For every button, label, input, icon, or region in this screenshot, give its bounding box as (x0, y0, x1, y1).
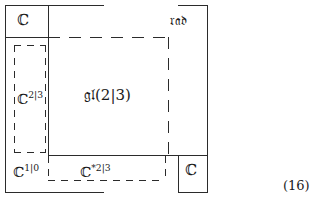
bottom-block-bottom-dashed-edge (48, 180, 165, 181)
bottom-right-box-left-line (178, 155, 179, 193)
label-bottom-right-box: ℂ (185, 163, 197, 178)
top-left-box-bottom-line (5, 37, 49, 38)
label-top-left-box: ℂ (17, 13, 29, 28)
label-left-block: ℂ2|3 (17, 90, 43, 106)
outer-right-vertical-line (207, 5, 208, 193)
label-bottom-center-superscript: *2|3 (91, 162, 110, 173)
left-block-left-dashed-edge (14, 45, 15, 153)
bottom-block-left-dashed-edge (48, 156, 49, 181)
label-bottom-center-base: ℂ (80, 164, 91, 180)
supermatrix-block-diagram: ℂ 𝔯𝔞𝔡 ℂ2|3 𝔤𝔩(2|3) ℂ1|0 ℂ*2|3 ℂ (16) (0, 0, 318, 199)
center-block-right-dashed-edge (168, 37, 169, 156)
label-bottom-left-base: ℂ (13, 164, 24, 180)
label-rad: 𝔯𝔞𝔡 (170, 14, 187, 27)
left-block-right-dashed-edge (45, 45, 46, 153)
outer-right-bottom-line (178, 192, 208, 193)
label-left-block-base: ℂ (17, 91, 28, 107)
center-block-top-dashed-edge (48, 37, 168, 38)
outer-left-vertical-line (5, 5, 6, 193)
outer-left-top-line (5, 5, 104, 6)
bottom-row-top-line (48, 155, 207, 156)
left-block-top-dashed-edge (14, 45, 46, 46)
outer-left-bottom-line (5, 192, 104, 193)
main-vertical-divider (48, 5, 49, 156)
equation-number: (16) (283, 178, 310, 193)
label-bottom-left: ℂ1|0 (13, 163, 39, 179)
label-center-block: 𝔤𝔩(2|3) (84, 88, 131, 103)
label-bottom-center: ℂ*2|3 (80, 163, 111, 179)
label-left-block-superscript: 2|3 (28, 89, 43, 100)
left-block-bottom-dashed-edge (14, 152, 46, 153)
outer-right-top-line (178, 5, 208, 6)
label-bottom-left-superscript: 1|0 (24, 162, 39, 173)
bottom-block-right-dashed-edge (165, 156, 166, 181)
